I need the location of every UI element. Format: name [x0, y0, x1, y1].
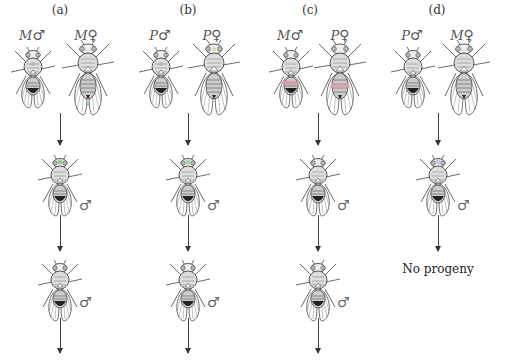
arrow-down-icon — [188, 215, 189, 251]
male-fly-icon — [138, 40, 184, 112]
male-symbol-icon: ♂ — [79, 197, 92, 213]
arrow-down-icon — [60, 318, 61, 353]
offspring-fly-icon — [37, 253, 83, 325]
arrow-down-icon — [318, 113, 319, 145]
offspring-fly-icon — [37, 148, 83, 220]
column-label: (d) — [428, 3, 445, 17]
offspring-fly-icon — [295, 148, 341, 220]
arrow-down-icon — [188, 113, 189, 145]
male-fly-icon — [268, 40, 314, 112]
column-label: (a) — [52, 3, 69, 17]
arrow-down-icon — [318, 215, 319, 251]
female-fly-icon — [436, 36, 492, 116]
offspring-fly-icon — [165, 148, 211, 220]
male-symbol-icon: ♂ — [207, 197, 220, 213]
male-symbol-icon: ♂ — [337, 294, 350, 310]
female-fly-icon — [312, 36, 368, 116]
female-fly-icon — [186, 36, 242, 116]
column-label: (c) — [302, 3, 318, 17]
offspring-fly-icon — [165, 253, 211, 325]
male-symbol-icon: ♂ — [79, 294, 92, 310]
arrow-down-icon — [188, 318, 189, 353]
offspring-fly-icon — [415, 148, 461, 220]
arrow-down-icon — [438, 113, 439, 145]
arrow-down-icon — [60, 215, 61, 251]
offspring-fly-icon — [295, 253, 341, 325]
male-fly-icon — [10, 40, 56, 112]
arrow-down-icon — [60, 113, 61, 145]
male-fly-icon — [390, 40, 436, 112]
column-label: (b) — [179, 3, 196, 17]
arrow-down-icon — [438, 215, 439, 251]
arrow-down-icon — [318, 318, 319, 353]
male-symbol-icon: ♂ — [207, 294, 220, 310]
male-symbol-icon: ♂ — [337, 197, 350, 213]
no-progeny-label: No progeny — [402, 262, 473, 276]
male-symbol-icon: ♂ — [457, 197, 470, 213]
female-fly-icon — [60, 36, 116, 116]
